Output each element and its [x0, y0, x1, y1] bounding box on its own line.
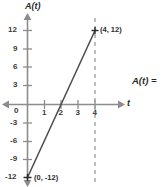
x-tick-label-3: 3 — [76, 109, 80, 117]
point-marker-0-minus12 — [24, 174, 31, 181]
y-axis-label: A(t) — [25, 2, 41, 11]
x-tick-label-2: 2 — [59, 109, 63, 117]
x-axis-label: t — [127, 99, 130, 108]
x-tick-label-1: 1 — [42, 109, 46, 117]
origin-label: 0 — [14, 107, 18, 115]
x-axis-right-arrow-icon — [118, 101, 125, 109]
y-tick-label-minus12: -12 — [5, 173, 17, 181]
x-tick-label-4: 4 — [93, 109, 97, 117]
y-tick-label-minus9: -9 — [10, 155, 17, 163]
y-tick-label-minus3: -3 — [10, 119, 17, 127]
y-tick-label-3: 3 — [13, 81, 17, 89]
y-tick-label-6: 6 — [13, 63, 17, 71]
coordinate-plane-svg — [0, 0, 165, 187]
point-marker-4-12 — [92, 27, 99, 34]
point-label-4-12: (4, 12) — [100, 26, 122, 34]
point-label-0-minus12: (0, -12) — [34, 174, 58, 182]
y-tick-label-12: 12 — [8, 26, 17, 34]
graph-figure: A(t) t 12 9 6 3 0 -3 -6 -9 -12 1 2 3 4 (… — [0, 0, 165, 187]
y-tick-label-9: 9 — [13, 45, 17, 53]
x-axis-left-arrow-icon — [2, 101, 9, 109]
function-expression: A(t) = — [132, 76, 157, 86]
y-tick-label-minus6: -6 — [10, 137, 17, 145]
y-axis-down-arrow-icon — [24, 180, 32, 187]
y-axis-up-arrow-icon — [24, 13, 32, 20]
